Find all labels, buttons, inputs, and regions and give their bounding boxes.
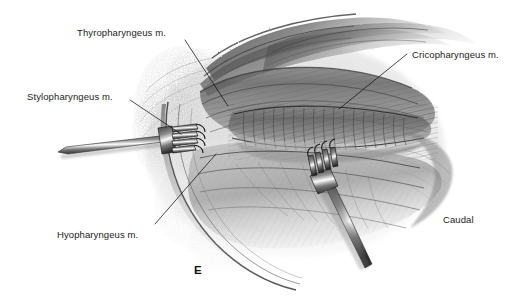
label-hyopharyngeus: Hyopharyngeus m. [57,229,138,240]
illustration-drawing [0,0,529,306]
label-cricopharyngeus: Cricopharyngeus m. [412,49,499,60]
orientation-label-caudal: Caudal [443,214,474,225]
label-stylopharyngeus: Stylopharyngeus m. [27,91,113,102]
figure-panel-letter: E [194,264,202,276]
label-thyropharyngeus: Thyropharyngeus m. [77,27,166,38]
anatomical-figure: Thyropharyngeus m. Stylopharyngeus m. Cr… [0,0,529,306]
